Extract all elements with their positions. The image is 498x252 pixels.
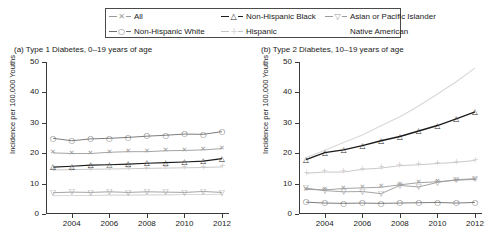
- legend-label-non-hispanic-black: Non-Hispanic Black: [246, 12, 316, 21]
- data-point-marker: ＋: [105, 165, 113, 173]
- data-point-marker: ○: [218, 128, 226, 136]
- y-axis-tick-label: 0: [35, 210, 39, 218]
- data-point-marker: ＋: [302, 169, 310, 177]
- data-point-marker: ✕: [396, 181, 404, 189]
- x-axis-tick: [437, 214, 438, 218]
- data-point-marker: ▽: [180, 188, 188, 196]
- y-axis-tick: [42, 92, 46, 93]
- data-point-marker: ▽: [377, 190, 385, 198]
- data-point-marker: ✕: [49, 149, 57, 157]
- legend-marker-glyph: ＋: [229, 28, 238, 37]
- data-point-marker: ○: [377, 199, 385, 207]
- x-axis-tick-label: 2008: [391, 220, 409, 228]
- data-point-marker: ○: [143, 132, 151, 140]
- legend-key-blank-icon: [325, 27, 347, 37]
- x-axis-tick: [109, 214, 110, 218]
- data-point-marker: ○: [124, 133, 132, 141]
- y-axis-tick-label: 40: [30, 88, 39, 96]
- series-line: [53, 194, 222, 196]
- legend-marker-glyph: ▽: [333, 13, 342, 22]
- data-point-marker: ＋: [415, 161, 423, 169]
- data-point-marker: △: [162, 159, 170, 167]
- y-axis-tick-label: 10: [283, 180, 292, 188]
- y-axis-tick: [295, 123, 299, 124]
- series-line: [306, 202, 475, 203]
- data-point-marker: ▽: [143, 188, 151, 196]
- data-point-marker: ○: [199, 130, 207, 138]
- data-point-marker: ✕: [199, 146, 207, 154]
- y-axis-tick-label: 30: [30, 119, 39, 127]
- data-point-marker: ✕: [321, 186, 329, 194]
- legend-label-all: All: [134, 12, 143, 21]
- legend-item-non-hispanic-black: △ Non-Hispanic Black: [221, 9, 325, 24]
- x-axis-tick: [72, 214, 73, 218]
- series-line: [53, 159, 222, 168]
- panel-b-title: (b) Type 2 Diabetes, 10–19 years of age: [261, 45, 404, 54]
- panel-b-x-axis: [299, 213, 482, 214]
- x-axis-tick-label: 2012: [466, 220, 484, 228]
- data-point-marker: ▽: [452, 176, 460, 184]
- data-point-marker: ＋: [218, 163, 226, 171]
- data-point-marker: △: [68, 162, 76, 170]
- y-axis-tick-label: 10: [30, 180, 39, 188]
- series-line: [306, 179, 475, 190]
- legend-label-native-american: Native American: [350, 27, 408, 36]
- data-point-marker: ▽: [358, 188, 366, 196]
- data-point-marker: ＋: [199, 163, 207, 171]
- data-point-marker: ○: [433, 198, 441, 206]
- data-point-marker: ○: [471, 198, 479, 206]
- data-point-marker: ✕: [340, 184, 348, 192]
- legend-key-x-icon: ✕: [109, 12, 131, 22]
- data-point-marker: ✕: [162, 147, 170, 155]
- legend-item-hispanic: ＋ Hispanic: [221, 24, 325, 39]
- data-point-marker: ▽: [68, 188, 76, 196]
- x-axis-tick-label: 2006: [100, 220, 118, 228]
- data-point-marker: ▽: [87, 188, 95, 196]
- data-point-marker: △: [180, 158, 188, 166]
- legend-grid: ✕ All △ Non-Hispanic Black ▽ Asian or Pa…: [106, 9, 400, 37]
- data-point-marker: ✕: [377, 183, 385, 191]
- data-point-marker: △: [415, 127, 423, 135]
- data-point-marker: △: [105, 161, 113, 169]
- data-point-marker: ○: [87, 135, 95, 143]
- data-point-marker: ▽: [162, 188, 170, 196]
- data-point-marker: ✕: [358, 184, 366, 192]
- data-point-marker: ○: [302, 198, 310, 206]
- data-point-marker: ○: [180, 130, 188, 138]
- data-point-marker: ○: [396, 199, 404, 207]
- data-point-marker: ✕: [452, 176, 460, 184]
- series-line: [306, 160, 475, 173]
- data-point-marker: ＋: [377, 164, 385, 172]
- x-axis-tick-label: 2004: [316, 220, 334, 228]
- series-line: [53, 149, 222, 154]
- x-axis-tick: [325, 214, 326, 218]
- data-point-marker: ＋: [162, 164, 170, 172]
- data-point-marker: ＋: [124, 165, 132, 173]
- y-axis-tick-label: 30: [283, 119, 292, 127]
- x-axis-tick: [184, 214, 185, 218]
- data-point-marker: △: [87, 161, 95, 169]
- legend-item-non-hispanic-white: ○ Non-Hispanic White: [109, 24, 221, 39]
- y-axis-tick: [42, 62, 46, 63]
- data-point-marker: △: [452, 115, 460, 123]
- data-point-marker: ＋: [87, 165, 95, 173]
- data-point-marker: △: [218, 155, 226, 163]
- data-point-marker: △: [143, 159, 151, 167]
- x-axis-tick-label: 2006: [353, 220, 371, 228]
- data-point-marker: ✕: [124, 148, 132, 156]
- y-axis-tick-label: 20: [283, 149, 292, 157]
- data-point-marker: ○: [49, 134, 57, 142]
- y-axis-tick: [42, 214, 46, 215]
- y-axis-tick: [295, 214, 299, 215]
- data-point-marker: ▽: [415, 183, 423, 191]
- panel-b-y-axis-label: Incidence per 100,000 Youths: [261, 45, 270, 165]
- data-point-marker: ✕: [302, 185, 310, 193]
- panel-type-2-diabetes: (b) Type 2 Diabetes, 10–19 years of age …: [249, 42, 498, 252]
- data-point-marker: ＋: [433, 160, 441, 168]
- data-point-marker: ＋: [321, 168, 329, 176]
- series-line: [306, 179, 475, 194]
- y-axis-tick-label: 20: [30, 149, 39, 157]
- data-point-marker: △: [377, 137, 385, 145]
- x-axis-tick-label: 2010: [176, 220, 194, 228]
- panel-b-plot-area: 0102030405020042006200820102012△△△△△△△△△…: [299, 62, 482, 214]
